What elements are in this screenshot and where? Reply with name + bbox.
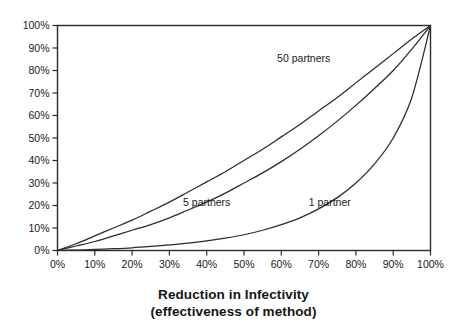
y-tick-label: 60% [28, 109, 49, 121]
x-tick-label: 20% [122, 258, 143, 270]
x-tick-label: 60% [271, 258, 292, 270]
x-tick-label: 0% [50, 258, 65, 270]
curve-annotation: 50 partners [277, 52, 330, 64]
y-tick-label: 80% [28, 64, 49, 76]
y-tick-label: 20% [28, 199, 49, 211]
y-tick-label: 90% [28, 42, 49, 54]
x-tick-label: 10% [84, 258, 105, 270]
x-tick-label: 90% [383, 258, 404, 270]
x-tick-label: 40% [196, 258, 217, 270]
y-tick-label: 100% [23, 19, 50, 31]
x-tick-label: 80% [345, 258, 366, 270]
y-tick-label: 40% [28, 154, 49, 166]
curve-annotation: 1 partner [309, 196, 352, 208]
y-tick-label: 70% [28, 87, 49, 99]
line-chart-plot: 0%10%20%30%40%50%60%70%80%90%100%0%10%20… [0, 0, 467, 331]
plot-frame [58, 26, 431, 251]
x-tick-label: 70% [308, 258, 329, 270]
y-tick-label: 10% [28, 222, 49, 234]
x-tick-label: 50% [233, 258, 254, 270]
y-tick-label: 30% [28, 177, 49, 189]
y-tick-label: 50% [28, 132, 49, 144]
curve-annotation: 5 partners [183, 196, 230, 208]
x-tick-label: 100% [417, 258, 444, 270]
x-axis-label-line2: (effectiveness of method) [0, 303, 467, 320]
x-axis-label-line1: Reduction in Infectivity [0, 286, 467, 303]
x-axis-label: Reduction in Infectivity (effectiveness … [0, 286, 467, 320]
y-tick-label: 0% [34, 244, 49, 256]
chart-figure: 0%10%20%30%40%50%60%70%80%90%100%0%10%20… [0, 0, 467, 331]
x-tick-label: 30% [159, 258, 180, 270]
